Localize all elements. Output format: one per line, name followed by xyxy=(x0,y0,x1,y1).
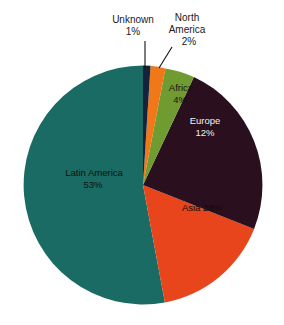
slice-label-latin-america-name: Latin America xyxy=(65,167,123,178)
callout-north-america: North America 2% xyxy=(169,12,206,47)
callout-leader-lines xyxy=(145,41,172,69)
callout-unknown-value: 1% xyxy=(126,26,141,37)
callout-north-america-value: 2% xyxy=(182,36,197,47)
callout-unknown-label: Unknown xyxy=(112,14,154,25)
slice-label-africa-name: Africa xyxy=(169,82,194,93)
callout-unknown: Unknown 1% xyxy=(112,14,154,37)
callout-north-america-label-line2: America xyxy=(169,24,206,35)
callout-north-america-label-line1: North xyxy=(175,12,199,23)
pie-chart-svg: Unknown 1% North America 2% Africa 4% Eu… xyxy=(0,0,284,325)
leader-line-north-america xyxy=(159,47,172,68)
slice-label-latin-america-value: 53% xyxy=(83,179,103,190)
slice-label-asia-name: Asia 28% xyxy=(182,202,223,213)
slice-label-europe-name: Europe xyxy=(190,115,221,126)
pie-chart-figure: Unknown 1% North America 2% Africa 4% Eu… xyxy=(0,0,284,325)
slice-label-asia: Asia 28% xyxy=(182,202,223,213)
pie-slices xyxy=(24,65,263,304)
slice-label-europe-value: 12% xyxy=(195,127,215,138)
slice-label-africa-value: 4% xyxy=(173,94,187,105)
